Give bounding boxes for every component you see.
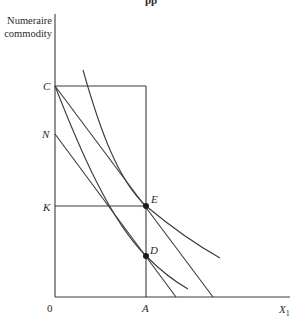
indifference-curve-E: [83, 70, 220, 258]
label-origin: 0: [47, 302, 53, 314]
label-x-axis: X1: [279, 303, 290, 320]
x-axis-label-main: X: [279, 303, 286, 315]
x-axis-label-sub: 1: [286, 309, 290, 318]
label-A: A: [142, 302, 149, 314]
point-D-dot: [143, 253, 149, 259]
label-E: E: [151, 193, 158, 205]
indifference-curve-D: [55, 86, 188, 289]
diagram-canvas: [0, 0, 305, 328]
label-N: N: [42, 128, 49, 140]
label-K: K: [43, 201, 50, 213]
point-E-dot: [143, 203, 149, 209]
budget-line-CE: [55, 86, 213, 297]
label-D: D: [150, 244, 158, 256]
label-C: C: [43, 80, 50, 92]
